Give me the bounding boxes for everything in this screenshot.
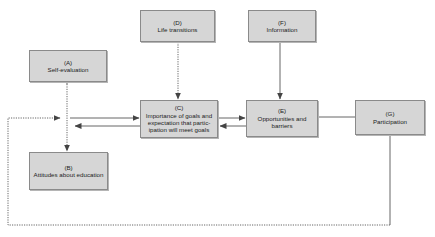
node-g-participation: (G) Participation: [355, 100, 425, 135]
node-letter: (D): [173, 19, 182, 26]
node-text: Attitudes about education: [34, 171, 104, 178]
node-text: Opportunities and barriers: [254, 115, 310, 130]
node-letter: (F): [278, 19, 286, 26]
node-letter: (A): [64, 59, 72, 66]
node-e-opportunities: (E) Opportunities and barriers: [246, 100, 318, 137]
node-b-attitudes: (B) Attitudes about education: [29, 152, 108, 190]
node-text: Information: [267, 26, 298, 33]
node-letter: (C): [175, 104, 184, 111]
node-a-self-evaluation: (A) Self-evaluation: [29, 50, 107, 82]
node-letter: (G): [386, 110, 395, 117]
node-text: Importance of goals and expectation that…: [142, 112, 216, 134]
node-c-importance-of-goals: (C) Importance of goals and expectation …: [140, 100, 218, 138]
node-letter: (E): [278, 107, 286, 114]
node-letter: (B): [64, 164, 72, 171]
node-text: Life transitions: [158, 26, 198, 33]
node-d-life-transitions: (D) Life transitions: [140, 10, 215, 42]
node-text: Self-evaluation: [48, 66, 89, 73]
node-text: Participation: [373, 118, 407, 125]
node-f-information: (F) Information: [248, 10, 316, 42]
